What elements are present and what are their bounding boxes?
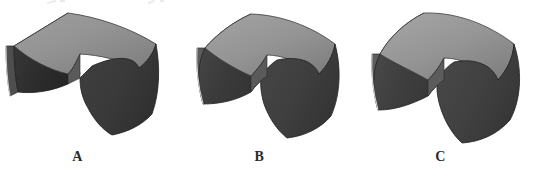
shape-panel-c: C (362, 0, 543, 178)
shape-panel-a: A (0, 0, 181, 178)
figure-root: A (0, 0, 544, 178)
shape-panel-b: B (181, 0, 362, 178)
shape-label-a: A (0, 148, 168, 166)
curved-sheet-solid-a (0, 0, 181, 150)
shape-label-c: C (350, 148, 531, 166)
curved-sheet-solid-c (362, 0, 543, 150)
curved-sheet-solid-b (181, 0, 362, 150)
shape-label-b: B (169, 148, 350, 166)
